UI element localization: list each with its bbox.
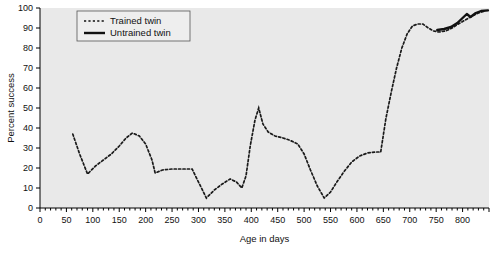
y-tick-label: 90 — [23, 23, 33, 33]
y-tick-label: 20 — [23, 163, 33, 173]
x-tick-label: 650 — [376, 215, 391, 225]
x-tick-label: 800 — [455, 215, 470, 225]
chart-svg: 0102030405060708090100050100150200250300… — [0, 0, 495, 256]
y-tick-label: 30 — [23, 143, 33, 153]
x-axis-title: Age in days — [240, 233, 290, 244]
x-tick-label: 300 — [191, 215, 206, 225]
x-tick-label: 500 — [297, 215, 312, 225]
y-tick-label: 40 — [23, 123, 33, 133]
x-tick-label: 0 — [37, 215, 42, 225]
legend-label: Trained twin — [110, 15, 161, 26]
y-tick-label: 70 — [23, 63, 33, 73]
x-tick-label: 700 — [402, 215, 417, 225]
x-tick-label: 150 — [112, 215, 127, 225]
x-tick-label: 550 — [323, 215, 338, 225]
x-tick-label: 400 — [244, 215, 259, 225]
y-tick-label: 10 — [23, 183, 33, 193]
y-tick-label: 60 — [23, 83, 33, 93]
x-tick-label: 250 — [165, 215, 180, 225]
x-tick-label: 200 — [138, 215, 153, 225]
y-axis-title: Percent success — [5, 73, 16, 143]
x-tick-label: 350 — [217, 215, 232, 225]
x-tick-label: 450 — [270, 215, 285, 225]
x-tick-label: 750 — [429, 215, 444, 225]
y-tick-label: 100 — [18, 3, 33, 13]
x-tick-label: 600 — [349, 215, 364, 225]
y-tick-label: 50 — [23, 103, 33, 113]
y-tick-label: 0 — [28, 203, 33, 213]
x-tick-label: 100 — [85, 215, 100, 225]
chart-figure: 0102030405060708090100050100150200250300… — [0, 0, 495, 256]
y-tick-label: 80 — [23, 43, 33, 53]
x-tick-label: 50 — [61, 215, 71, 225]
legend-label: Untrained twin — [110, 27, 171, 38]
